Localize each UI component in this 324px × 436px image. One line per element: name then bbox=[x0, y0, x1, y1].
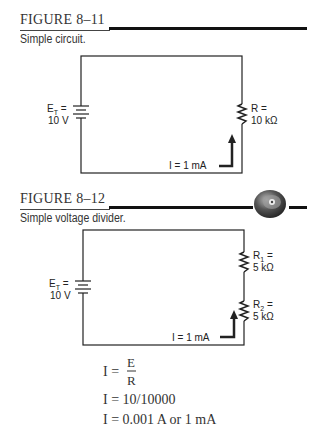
resistor-r2-value: 5 kΩ bbox=[253, 311, 274, 322]
cd-disc-icon bbox=[254, 190, 286, 218]
equation-denominator: R bbox=[127, 373, 136, 389]
source-value-8-11: 10 V bbox=[48, 115, 69, 126]
equation-numerator: E bbox=[127, 355, 135, 371]
current-label-8-11: I = 1 mA bbox=[169, 160, 207, 171]
resistor-r1-value: 5 kΩ bbox=[253, 262, 274, 273]
circuit-diagrams: ET = 10 V R = 10 kΩ I = 1 mA ET = 10 V R… bbox=[0, 0, 324, 436]
source-value-8-12: 10 V bbox=[50, 290, 71, 301]
resistor-value-8-11: 10 kΩ bbox=[251, 115, 278, 126]
circuit-8-12 bbox=[75, 230, 248, 345]
resistor-label-8-11: R = bbox=[251, 103, 267, 114]
circuit-8-11 bbox=[73, 56, 246, 173]
current-label-8-12: I = 1 mA bbox=[172, 332, 210, 343]
equation-line-3: I = 0.001 A or 1 mA bbox=[103, 412, 216, 428]
equation-line-2: I = 10/10000 bbox=[103, 392, 175, 408]
equation-line-1-lhs: I = bbox=[103, 364, 119, 380]
